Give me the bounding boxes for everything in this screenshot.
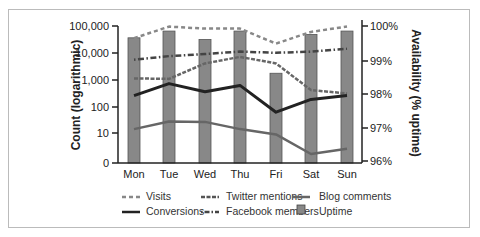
uptime-bar (270, 73, 282, 163)
left-tick-label: 1,000 (81, 74, 109, 86)
legend-conversions: Conversions (146, 205, 204, 217)
left-tick-label: 100,000 (69, 20, 109, 32)
legend: Visits Conversions Twitter mentions Face… (122, 190, 391, 217)
uptime-bar (163, 31, 175, 163)
x-tick-label: Thu (231, 168, 250, 180)
right-tick-label: 100% (370, 20, 398, 32)
uptime-bar (128, 38, 140, 163)
right-axis-ticks: 100%99%98%97%96% (362, 20, 398, 167)
legend-visits: Visits (146, 190, 171, 202)
x-tick-label: Tue (160, 168, 179, 180)
right-tick-label: 98% (370, 88, 392, 100)
x-tick-label: Sun (337, 168, 357, 180)
right-tick-label: 97% (370, 122, 392, 134)
right-tick-label: 96% (370, 155, 392, 167)
left-axis-label: Count (logarithmic) (69, 40, 83, 151)
uptime-bar (199, 40, 211, 164)
chart-svg: 100,00010,0001,000100100 100%99%98%97%96… (0, 0, 480, 237)
left-tick-label: 10 (97, 127, 109, 139)
x-tick-label: Fri (270, 168, 283, 180)
legend-twitter: Twitter mentions (226, 190, 302, 202)
left-tick-label: 0 (103, 157, 109, 169)
x-axis-labels: MonTueWedThuFriSatSun (123, 168, 356, 180)
legend-uptime: Uptime (319, 205, 352, 217)
right-axis-label: Availability (% uptime) (409, 29, 423, 157)
left-tick-label: 100 (91, 101, 109, 113)
right-tick-label: 99% (370, 55, 392, 67)
x-tick-label: Mon (123, 168, 144, 180)
x-tick-label: Wed (194, 168, 216, 180)
legend-blog: Blog comments (319, 190, 391, 202)
x-tick-label: Sat (303, 168, 320, 180)
